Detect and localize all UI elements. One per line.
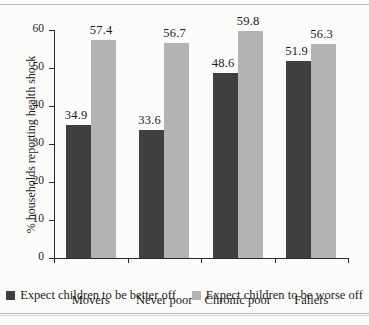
y-axis-tick bbox=[49, 182, 54, 183]
y-axis-tick-label: 50 bbox=[18, 60, 44, 72]
bar-value-label: 51.9 bbox=[285, 44, 308, 59]
legend-swatch-icon bbox=[192, 291, 201, 300]
x-axis-tick bbox=[275, 258, 276, 263]
legend-label: Expect children to be better off bbox=[20, 288, 176, 303]
legend-label: Expect children to be worse off bbox=[206, 288, 363, 303]
bar bbox=[66, 125, 91, 258]
page-rule-bottom-secondary bbox=[0, 315, 369, 316]
bar-value-label: 57.4 bbox=[90, 23, 113, 38]
y-axis-tick-label: 40 bbox=[18, 98, 44, 110]
y-axis-tick-label: 0 bbox=[18, 250, 44, 262]
y-axis-tick bbox=[49, 30, 54, 31]
bar-value-label: 56.7 bbox=[163, 26, 186, 41]
bar-value-label: 33.6 bbox=[138, 113, 161, 128]
bar bbox=[164, 43, 189, 258]
y-axis-tick-label: 10 bbox=[18, 212, 44, 224]
bar bbox=[311, 44, 336, 258]
x-axis-tick bbox=[128, 258, 129, 263]
legend-item: Expect children to be worse off bbox=[192, 288, 363, 303]
legend-swatch-icon bbox=[6, 291, 15, 300]
plot-area: % households reporting health shock 0102… bbox=[54, 30, 348, 259]
bar-value-label: 34.9 bbox=[65, 108, 88, 123]
bar-value-label: 59.8 bbox=[237, 14, 260, 29]
y-axis-tick bbox=[49, 220, 54, 221]
bar bbox=[286, 61, 311, 258]
y-axis-tick bbox=[49, 106, 54, 107]
bar bbox=[238, 31, 263, 258]
x-axis-tick bbox=[54, 258, 55, 263]
legend-item: Expect children to be better off bbox=[6, 288, 176, 303]
page-rule-top bbox=[0, 4, 369, 5]
y-axis-tick-label: 30 bbox=[18, 136, 44, 148]
x-axis-tick bbox=[348, 258, 349, 263]
y-axis-line bbox=[54, 30, 55, 259]
y-axis-tick bbox=[49, 68, 54, 69]
bar-value-label: 48.6 bbox=[212, 56, 235, 71]
bar-value-label: 56.3 bbox=[310, 27, 333, 42]
bar bbox=[139, 130, 164, 258]
y-axis-tick-label: 60 bbox=[18, 22, 44, 34]
bar bbox=[91, 40, 116, 258]
y-axis-tick bbox=[49, 144, 54, 145]
page-rule-bottom bbox=[0, 313, 369, 314]
bar-chart-figure: % households reporting health shock 0102… bbox=[0, 0, 369, 325]
chart-legend: Expect children to be better offExpect c… bbox=[0, 288, 369, 303]
x-axis-tick bbox=[201, 258, 202, 263]
y-axis-tick-label: 20 bbox=[18, 174, 44, 186]
bar bbox=[213, 73, 238, 258]
